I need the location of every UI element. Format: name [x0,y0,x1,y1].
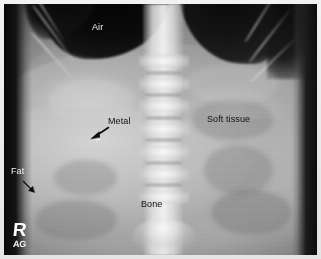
vertebra-body [139,54,189,68]
vertebra-body [139,167,189,181]
annotation-arrow-metal [90,126,110,140]
annotation-label-bone: Bone [141,200,162,209]
intervertebral-disc-space [145,71,183,75]
side-marker-letter: R [12,220,27,239]
intervertebral-disc-space [145,161,183,165]
annotation-label-air: Air [92,23,103,32]
right-collimation-edge [292,4,317,255]
radiograph-figure: Air Metal Soft tissue Bone Fat R AG [0,0,321,259]
annotation-label-soft-tissue: Soft tissue [207,115,250,124]
vertebra-body [139,122,189,136]
vertebra-body [139,77,189,91]
side-marker: R AG [13,220,26,249]
bowel-gas-shadow [204,145,273,195]
annotation-arrow-fat [22,180,36,194]
left-collimation-edge [4,4,32,255]
annotation-label-metal: Metal [108,117,131,126]
side-marker-initials: AG [13,240,27,249]
vertebra-body [139,145,189,159]
bowel-gas-shadow [54,160,117,195]
organ-shadow [211,190,292,235]
radiograph-plate: Air Metal Soft tissue Bone Fat R AG [4,4,317,255]
annotation-label-fat: Fat [11,167,24,176]
intervertebral-disc-space [145,93,183,97]
sacrum-shadow [132,220,195,255]
vertebra-body [139,99,189,113]
intervertebral-disc-space [145,116,183,120]
bowel-gas-shadow [35,200,116,240]
